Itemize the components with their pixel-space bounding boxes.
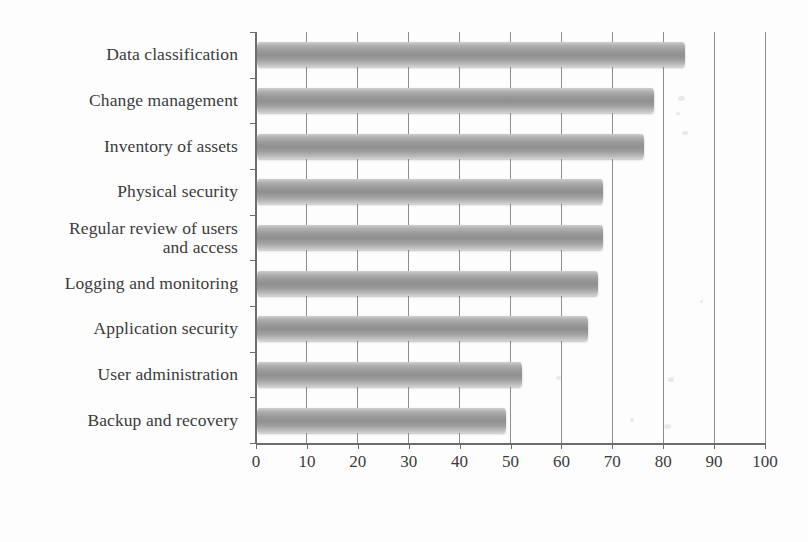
- bar: [257, 316, 588, 341]
- bar: [257, 362, 522, 387]
- category-label: Application security: [0, 319, 238, 338]
- paper-speckle: [700, 300, 703, 303]
- x-tick-mark-60: [561, 443, 562, 449]
- plot-area: [256, 32, 765, 443]
- category-label-line: Change management: [0, 91, 238, 110]
- x-tick-mark-90: [714, 443, 715, 449]
- category-label: Regular review of usersand access: [0, 219, 238, 257]
- gridline-90: [714, 32, 715, 443]
- paper-speckle: [668, 377, 674, 382]
- bar: [257, 42, 685, 67]
- category-label: Change management: [0, 91, 238, 110]
- x-tick-mark-10: [307, 443, 308, 449]
- gridline-80: [663, 32, 664, 443]
- x-tick-mark-20: [358, 443, 359, 449]
- category-label-line: Backup and recovery: [0, 411, 238, 430]
- paper-speckle: [676, 112, 680, 115]
- y-tick-mark: [250, 397, 256, 398]
- bar: [257, 134, 644, 159]
- y-tick-mark: [250, 123, 256, 124]
- bar: [257, 408, 506, 433]
- paper-speckle: [678, 96, 685, 101]
- category-label: User administration: [0, 365, 238, 384]
- category-label-line: Logging and monitoring: [0, 274, 238, 293]
- paper-speckle: [664, 424, 671, 429]
- category-label-line: Data classification: [0, 45, 238, 64]
- category-label-line: User administration: [0, 365, 238, 384]
- category-label: Backup and recovery: [0, 411, 238, 430]
- y-tick-mark: [250, 32, 256, 33]
- category-label: Logging and monitoring: [0, 274, 238, 293]
- category-label-line: and access: [0, 238, 238, 257]
- x-tick-mark-40: [460, 443, 461, 449]
- y-axis-category-labels: Data classificationChange managementInve…: [0, 32, 248, 443]
- x-tick-mark-30: [409, 443, 410, 449]
- y-tick-mark: [250, 352, 256, 353]
- x-tick-mark-50: [511, 443, 512, 449]
- category-label: Inventory of assets: [0, 137, 238, 156]
- y-tick-mark: [250, 306, 256, 307]
- y-tick-mark: [250, 215, 256, 216]
- bar: [257, 179, 603, 204]
- x-axis-tick-labels: 0102030405060708090100: [0, 452, 808, 482]
- category-label-line: Inventory of assets: [0, 137, 238, 156]
- category-label: Data classification: [0, 45, 238, 64]
- bar: [257, 271, 598, 296]
- paper-speckle: [630, 418, 634, 422]
- bar: [257, 225, 603, 250]
- category-label-line: Application security: [0, 319, 238, 338]
- paper-speckle: [682, 131, 688, 135]
- x-tick-label: 100: [735, 452, 795, 472]
- y-tick-mark: [250, 443, 256, 444]
- category-label-line: Regular review of users: [0, 219, 238, 238]
- x-tick-mark-0: [256, 443, 257, 449]
- paper-speckle: [556, 376, 561, 380]
- y-tick-mark: [250, 169, 256, 170]
- y-tick-mark: [250, 78, 256, 79]
- x-tick-mark-80: [663, 443, 664, 449]
- bar: [257, 88, 654, 113]
- bar-chart: Data classificationChange managementInve…: [0, 0, 808, 542]
- category-label: Physical security: [0, 182, 238, 201]
- category-label-line: Physical security: [0, 182, 238, 201]
- gridline-100: [765, 32, 766, 443]
- y-tick-mark: [250, 260, 256, 261]
- x-tick-mark-100: [765, 443, 766, 449]
- x-tick-mark-70: [612, 443, 613, 449]
